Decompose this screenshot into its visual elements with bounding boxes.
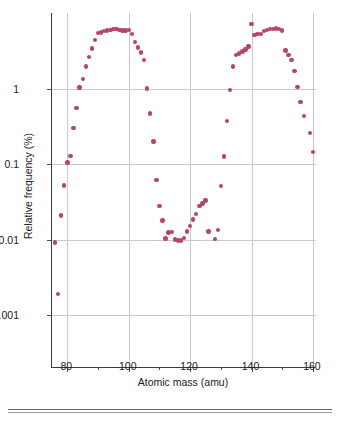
y-tick-label: 0.01 bbox=[0, 234, 19, 246]
data-point bbox=[56, 292, 60, 296]
x-tick-label: 80 bbox=[61, 360, 73, 372]
data-point bbox=[65, 160, 69, 164]
gridline-vertical bbox=[67, 13, 68, 368]
gridline-horizontal bbox=[52, 315, 316, 316]
data-point bbox=[231, 64, 235, 68]
x-tick-minor bbox=[221, 367, 222, 370]
gridline-vertical bbox=[252, 13, 253, 368]
data-point bbox=[139, 50, 143, 54]
data-point bbox=[84, 64, 88, 68]
data-point bbox=[295, 85, 299, 89]
x-tick-label: 140 bbox=[242, 360, 260, 372]
data-point bbox=[151, 139, 155, 143]
data-point bbox=[289, 58, 293, 62]
data-point bbox=[228, 88, 232, 92]
data-point bbox=[246, 44, 250, 48]
data-point bbox=[311, 150, 315, 154]
data-point bbox=[68, 154, 72, 158]
data-point bbox=[308, 131, 312, 135]
data-point bbox=[133, 40, 137, 44]
caption-divider-rule bbox=[8, 409, 332, 410]
x-tick-label: 120 bbox=[180, 360, 198, 372]
x-tick-minor bbox=[159, 367, 160, 370]
data-point bbox=[163, 236, 167, 240]
data-point bbox=[225, 119, 229, 123]
data-point bbox=[302, 114, 306, 118]
data-point bbox=[130, 32, 134, 36]
data-point bbox=[59, 213, 63, 217]
data-point bbox=[249, 22, 253, 26]
data-point bbox=[292, 69, 296, 73]
gridline-vertical bbox=[129, 13, 130, 368]
data-point bbox=[216, 228, 220, 232]
y-tick-label: 0.001 bbox=[0, 309, 19, 321]
y-tick-major bbox=[47, 315, 52, 316]
data-point bbox=[74, 106, 78, 110]
data-point bbox=[185, 229, 189, 233]
data-point bbox=[203, 198, 207, 202]
data-point bbox=[154, 178, 158, 182]
data-point bbox=[142, 58, 146, 62]
data-point bbox=[280, 28, 284, 32]
data-point bbox=[206, 229, 210, 233]
x-tick-minor bbox=[282, 367, 283, 370]
y-axis-label: Relative frequency (%) bbox=[22, 111, 34, 261]
data-point bbox=[71, 126, 75, 130]
data-point bbox=[160, 218, 164, 222]
data-point bbox=[157, 204, 161, 208]
y-tick-major bbox=[47, 240, 52, 241]
y-tick-label: 1 bbox=[13, 83, 19, 95]
x-tick-label: 160 bbox=[303, 360, 321, 372]
data-point bbox=[136, 45, 140, 49]
gridline-vertical bbox=[190, 13, 191, 368]
data-point bbox=[191, 217, 195, 221]
x-axis-label: Atomic mass (amu) bbox=[51, 376, 315, 388]
y-tick-major bbox=[47, 89, 52, 90]
data-point bbox=[53, 240, 57, 244]
y-tick-major bbox=[47, 164, 52, 165]
plot-area bbox=[51, 13, 315, 368]
y-tick-label: 0.1 bbox=[4, 158, 19, 170]
data-point bbox=[77, 85, 81, 89]
gridline-horizontal bbox=[52, 164, 316, 165]
data-point bbox=[194, 212, 198, 216]
data-point bbox=[81, 77, 85, 81]
data-point bbox=[219, 184, 223, 188]
data-point bbox=[93, 38, 97, 42]
data-point bbox=[283, 48, 287, 52]
data-point bbox=[188, 224, 192, 228]
data-point bbox=[148, 111, 152, 115]
data-point bbox=[298, 100, 302, 104]
data-point bbox=[213, 237, 217, 241]
data-point bbox=[222, 154, 226, 158]
data-point bbox=[62, 183, 66, 187]
gridline-vertical bbox=[313, 13, 314, 368]
data-point bbox=[170, 230, 174, 234]
x-tick-minor bbox=[98, 367, 99, 370]
gridline-horizontal bbox=[52, 89, 316, 90]
fission-yield-figure: 80100120140160 10.10.010.001 Atomic mass… bbox=[0, 0, 340, 426]
data-point bbox=[90, 46, 94, 50]
data-point bbox=[145, 86, 149, 90]
data-point bbox=[87, 55, 91, 59]
data-point bbox=[286, 53, 290, 57]
caption-divider-rule-thin bbox=[8, 412, 332, 413]
x-tick-label: 100 bbox=[119, 360, 137, 372]
